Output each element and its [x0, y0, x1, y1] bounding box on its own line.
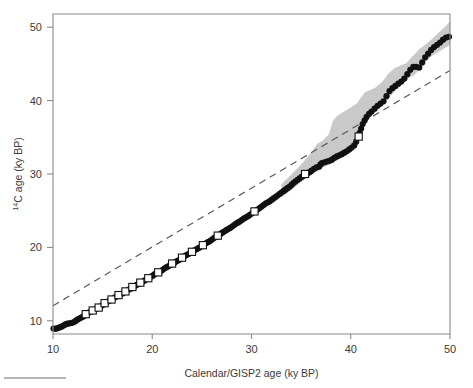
data-point-open-square — [302, 170, 309, 177]
data-point-open-square — [137, 279, 144, 286]
y-axis-title-group: 14C age (ky BP) — [11, 137, 24, 210]
y-tick-label: 10 — [30, 315, 42, 327]
figure-container: 1020304050 1020304050 Calendar/GISP2 age… — [0, 0, 473, 388]
data-point-open-square — [169, 260, 176, 267]
y-axis-title: 14C age (ky BP) — [11, 137, 24, 210]
y-axis-title-main: C age (ky BP) — [12, 137, 24, 202]
data-point-open-square — [82, 311, 89, 318]
x-tick-label: 30 — [245, 343, 257, 355]
x-tick-label: 20 — [146, 343, 158, 355]
data-point-open-square — [145, 275, 152, 282]
data-point-open-square — [214, 232, 221, 239]
data-point-open-square — [108, 296, 115, 303]
y-axis-ticks-group: 1020304050 — [30, 21, 53, 327]
y-tick-label: 50 — [30, 21, 42, 33]
data-point-open-square — [101, 300, 108, 307]
data-point-open-square — [178, 254, 185, 261]
scan-artifact-line — [4, 377, 66, 379]
x-tick-label: 50 — [444, 343, 456, 355]
axes-frame-group: 1020304050 1020304050 — [30, 14, 456, 355]
y-axis-title-superscript: 14 — [11, 203, 20, 211]
x-axis-title: Calendar/GISP2 age (ky BP) — [184, 367, 318, 379]
y-tick-label: 30 — [30, 168, 42, 180]
data-point-open-square — [155, 269, 162, 276]
data-point-open-square — [122, 288, 129, 295]
x-tick-label: 40 — [345, 343, 357, 355]
y-tick-label: 20 — [30, 241, 42, 253]
scatter-plot: 1020304050 1020304050 Calendar/GISP2 age… — [0, 0, 473, 388]
plot-frame — [53, 14, 450, 334]
x-axis-ticks-group: 1020304050 — [47, 334, 456, 355]
data-point-open-square — [199, 242, 206, 249]
x-axis-title-group: Calendar/GISP2 age (ky BP) — [184, 367, 318, 379]
x-tick-label: 10 — [47, 343, 59, 355]
data-point-open-square — [355, 133, 362, 140]
data-point-open-square — [129, 283, 136, 290]
y-tick-label: 40 — [30, 95, 42, 107]
one-to-one-dashed-line — [53, 71, 450, 306]
data-point-open-square — [251, 208, 258, 215]
data-point-filled-circle — [446, 34, 452, 40]
data-point-open-square — [188, 248, 195, 255]
data-point-open-square — [115, 292, 122, 299]
reference-line-group — [53, 71, 450, 306]
